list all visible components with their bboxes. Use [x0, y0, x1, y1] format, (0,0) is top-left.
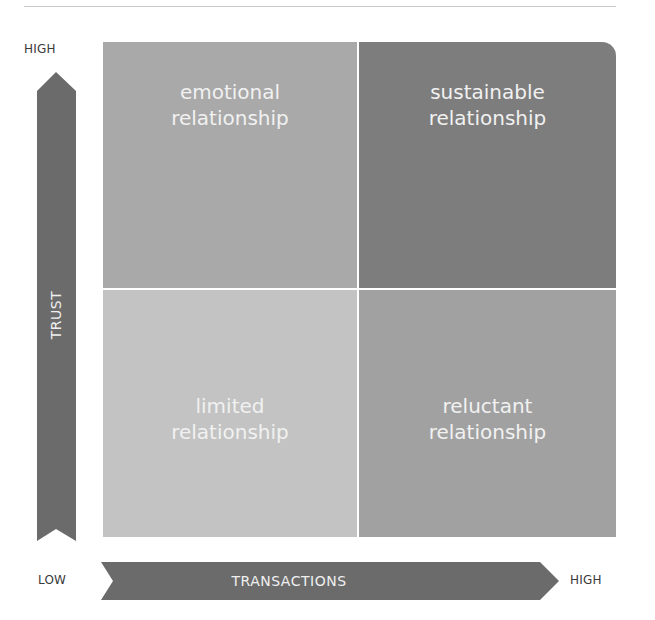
quadrant-title-line2: relationship	[429, 105, 547, 131]
x-axis-label: TRANSACTIONS	[231, 573, 346, 589]
quadrant-grid: emotional relationship sustainable relat…	[103, 42, 616, 537]
quadrant-title-line2: relationship	[171, 105, 289, 131]
top-rule	[24, 6, 616, 7]
quadrant-title-line1: limited	[171, 393, 289, 419]
quadrant-title-line1: reluctant	[429, 393, 547, 419]
x-axis-high-label: HIGH	[570, 573, 602, 587]
quadrant-title-line2: relationship	[171, 419, 289, 445]
quadrant-limited-relationship: limited relationship	[103, 290, 357, 537]
quadrant-sustainable-relationship: sustainable relationship	[359, 42, 616, 288]
quadrant-title-line1: emotional	[171, 79, 289, 105]
y-axis-label: TRUST	[48, 291, 64, 339]
y-axis-high-label: HIGH	[24, 42, 56, 56]
quadrant-reluctant-relationship: reluctant relationship	[359, 290, 616, 537]
quadrant-title-line1: sustainable	[429, 79, 547, 105]
quadrant-title-line2: relationship	[429, 419, 547, 445]
quadrant-emotional-relationship: emotional relationship	[103, 42, 357, 288]
x-axis-low-label: LOW	[38, 573, 66, 587]
